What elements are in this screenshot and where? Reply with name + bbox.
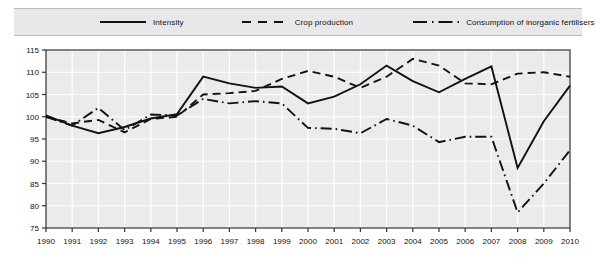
y-tick-label: 105 <box>26 91 40 100</box>
y-tick-label: 90 <box>30 157 39 166</box>
x-tick-label: 1990 <box>37 237 55 246</box>
legend-label-intensity: Intensity <box>153 18 184 27</box>
y-tick-label: 80 <box>30 202 39 211</box>
x-tick-label: 2000 <box>299 237 317 246</box>
x-tick-label: 1996 <box>194 237 212 246</box>
y-tick-label: 110 <box>26 68 39 77</box>
y-tick-label: 100 <box>26 113 40 122</box>
line-dashdot-icon <box>413 17 459 27</box>
x-tick-label: 2003 <box>378 237 396 246</box>
line-solid-icon <box>100 17 146 27</box>
x-tick-label: 2007 <box>483 237 501 246</box>
x-tick-label: 1998 <box>247 237 265 246</box>
x-tick-label: 1997 <box>221 237 239 246</box>
y-tick-label: 95 <box>30 135 39 144</box>
x-tick-label: 1995 <box>168 237 186 246</box>
x-tick-label: 2004 <box>404 237 422 246</box>
x-tick-label: 1994 <box>142 237 160 246</box>
x-tick-label: 2010 <box>561 237 579 246</box>
x-tick-label: 2001 <box>325 237 343 246</box>
x-tick-label: 2008 <box>509 237 527 246</box>
legend-entry-fertilisers: Consumption of inorganic fertilisers <box>413 9 595 35</box>
legend-entry-intensity: Intensity <box>100 9 184 35</box>
legend-entry-crop-production: Crop production <box>242 9 353 35</box>
x-axis-ticks: 1990199119921993199419951996199719981999… <box>37 228 579 246</box>
grid-lines <box>46 50 570 228</box>
chart-figure: Intensity Crop production Consumption of… <box>0 0 596 268</box>
legend-label-crop-production: Crop production <box>295 18 353 27</box>
x-tick-label: 1991 <box>63 237 81 246</box>
chart-legend: Intensity Crop production Consumption of… <box>14 8 582 36</box>
x-tick-label: 2005 <box>430 237 448 246</box>
legend-label-fertilisers: Consumption of inorganic fertilisers <box>466 18 595 27</box>
plot-area: 7580859095100105110115 19901991199219931… <box>0 40 596 262</box>
line-dashed-icon <box>242 17 288 27</box>
x-tick-label: 1999 <box>273 237 291 246</box>
chart-canvas: 7580859095100105110115 19901991199219931… <box>0 40 596 262</box>
y-tick-label: 115 <box>26 46 39 55</box>
y-tick-label: 85 <box>30 180 39 189</box>
y-tick-label: 75 <box>30 224 39 233</box>
x-tick-label: 1992 <box>90 237 108 246</box>
x-tick-label: 2006 <box>456 237 474 246</box>
x-tick-label: 2002 <box>352 237 370 246</box>
x-tick-label: 1993 <box>116 237 134 246</box>
x-tick-label: 2009 <box>535 237 553 246</box>
y-axis-ticks: 7580859095100105110115 <box>26 46 46 233</box>
